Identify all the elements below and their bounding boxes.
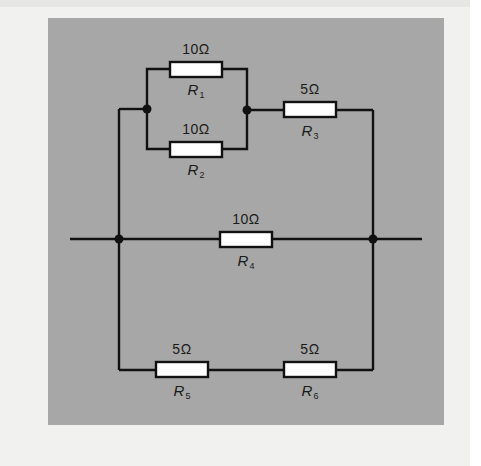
resistor-r1-index: 1 [199,90,204,100]
resistor-r6-index: 6 [313,391,318,401]
resistor-r2 [170,142,222,157]
resistor-r1-label: R1 [188,83,205,102]
resistor-r6-letter: R [302,382,313,399]
junction-node-parallel-right [243,106,252,115]
resistor-r1-letter: R [188,81,199,98]
junction-node-main-right [369,235,378,244]
resistor-r4 [220,232,272,247]
resistor-r3-label: R3 [302,124,319,143]
junction-node-parallel-left [143,105,152,114]
resistor-r1-value: 10Ω [182,42,210,56]
resistor-r2-label: R2 [188,163,205,182]
resistor-r4-label: R4 [238,254,255,273]
resistor-r2-letter: R [188,161,199,178]
resistor-r4-letter: R [238,252,249,269]
resistor-r1 [170,62,222,77]
resistor-r6 [284,362,336,377]
circuit-diagram [0,0,481,466]
resistor-r4-value: 10Ω [232,212,260,226]
resistor-r5 [156,362,208,377]
resistor-r6-value: 5Ω [300,342,319,356]
resistor-r5-index: 5 [185,391,190,401]
resistor-r5-label: R5 [174,384,191,403]
resistor-r3-index: 3 [313,131,318,141]
resistor-r5-letter: R [174,382,185,399]
resistor-r3 [284,102,336,117]
junction-node-main-left [115,235,124,244]
resistor-r6-label: R6 [302,384,319,403]
resistor-r2-index: 2 [199,170,204,180]
resistor-r5-value: 5Ω [172,342,191,356]
resistor-r2-value: 10Ω [182,122,210,136]
resistor-r3-letter: R [302,122,313,139]
resistor-r3-value: 5Ω [300,82,319,96]
resistor-r4-index: 4 [249,261,254,271]
